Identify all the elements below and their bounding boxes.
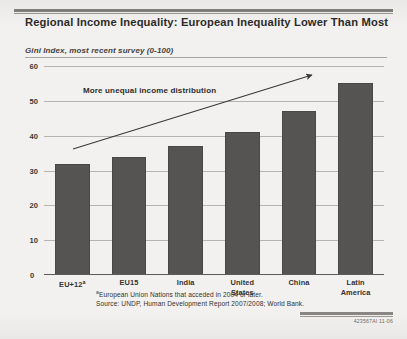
x-axis-label-0: EU+12a [44, 278, 100, 297]
y-tick-50: 50 [30, 96, 38, 105]
x-axis-line [44, 274, 384, 275]
y-tick-30: 30 [30, 166, 38, 175]
footnote-text: European Union Nations that acceded in 2… [99, 291, 263, 298]
bar-slot [327, 66, 383, 275]
bar-latin-america[interactable] [338, 83, 372, 275]
bar-slot [157, 66, 213, 275]
y-tick-zero: 0 [30, 271, 34, 280]
trend-annotation-label: More unequal income distribution [83, 86, 216, 95]
bar-slot [101, 66, 157, 275]
bar-eu+12-a[interactable] [55, 164, 89, 275]
footnotes: aEuropean Union Nations that acceded in … [96, 288, 396, 308]
bar-series [44, 66, 384, 275]
header-rule-thin [14, 13, 393, 14]
y-tick-20: 20 [30, 201, 38, 210]
plot-area: 102030405060 [44, 66, 384, 275]
bar-slot [44, 66, 100, 275]
y-tick-40: 40 [30, 131, 38, 140]
bar-india[interactable] [168, 146, 202, 275]
subtitle-rule [25, 57, 387, 58]
chart-subtitle: Gini Index, most recent survey (0-100) [25, 46, 173, 55]
footer-rule-thin [300, 316, 393, 317]
bar-slot [214, 66, 270, 275]
document-id: 423567AI 11-06 [354, 318, 393, 324]
page-title: Regional Income Inequality: European Ine… [25, 16, 395, 28]
footnote-definition: aEuropean Union Nations that acceded in … [96, 288, 396, 299]
bar-slot [271, 66, 327, 275]
bar-china[interactable] [282, 111, 316, 275]
bar-eu15[interactable] [112, 157, 146, 275]
footer-rule [300, 312, 393, 315]
chart-slide: Regional Income Inequality: European Ine… [0, 0, 407, 339]
source-line: Source: UNDP, Human Development Report 2… [96, 299, 396, 308]
y-tick-60: 60 [30, 62, 38, 71]
bar-united-states[interactable] [225, 132, 259, 275]
y-tick-10: 10 [30, 236, 38, 245]
header-rule [14, 9, 393, 12]
